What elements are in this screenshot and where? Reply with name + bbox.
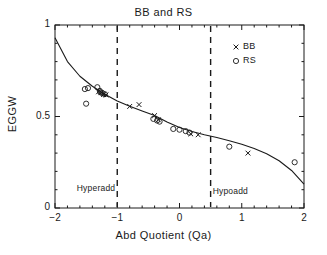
legend-markers [233,45,238,64]
legend-label-bb: BB [243,41,256,51]
x-tick-label: −1 [97,212,137,223]
chart-figure: BB and RS Abd Quotient (Qa) EGGW −2−1012… [0,0,327,255]
legend-label-rs: RS [243,55,256,65]
fit-curve [55,38,304,184]
axis-ticks [55,25,304,208]
x-tick-label: 0 [160,212,200,223]
x-tick-label: 1 [222,212,262,223]
x-tick-label: −2 [35,212,75,223]
axes-frame [55,25,304,208]
y-tick-label: 1 [10,18,50,29]
threshold-annotation: Hyperadd [61,183,115,193]
threshold-lines [117,26,210,207]
y-tick-label: 0.5 [10,110,50,121]
x-tick-label: 2 [284,212,324,223]
threshold-annotation: Hypoadd [213,186,248,196]
y-tick-label: 0 [10,201,50,212]
